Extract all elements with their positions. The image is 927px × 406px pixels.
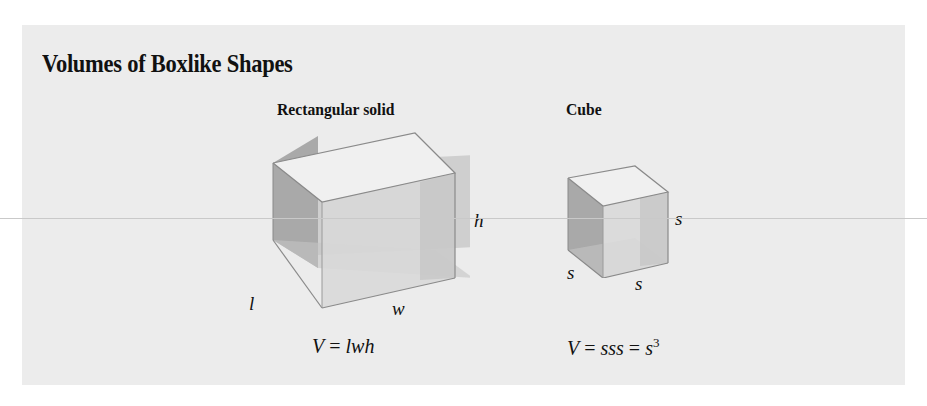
formula-equals: = xyxy=(584,337,595,359)
cube-side-left-label: s xyxy=(567,262,574,284)
width-label: w xyxy=(392,298,405,320)
formula-volume-var: V xyxy=(312,335,324,357)
formula-equals: = xyxy=(329,335,340,357)
cube-side-right-label: s xyxy=(675,208,682,230)
formula-product: sss xyxy=(601,337,624,359)
cube-heading: Cube xyxy=(566,100,602,120)
cube-figure xyxy=(565,163,675,278)
section-title: Volumes of Boxlike Shapes xyxy=(42,50,293,78)
formula-volume-var: V xyxy=(567,337,579,359)
formula-exponent: 3 xyxy=(653,335,660,350)
formula-base: s xyxy=(645,337,653,359)
cube-formula: V = sss = s3 xyxy=(567,335,659,360)
cube-side-bottom-label: s xyxy=(635,273,642,295)
content-panel: Volumes of Boxlike Shapes Rectangular so… xyxy=(22,25,905,385)
formula-equals: = xyxy=(629,337,640,359)
scan-artifact-line xyxy=(0,218,927,219)
rectangular-solid-formula: V = lwh xyxy=(312,335,374,358)
length-label: l xyxy=(249,293,254,315)
height-label: h xyxy=(474,210,484,232)
rectangular-solid-heading: Rectangular solid xyxy=(277,100,394,120)
formula-rhs: lwh xyxy=(346,335,375,357)
rectangular-solid-figure xyxy=(270,130,470,310)
